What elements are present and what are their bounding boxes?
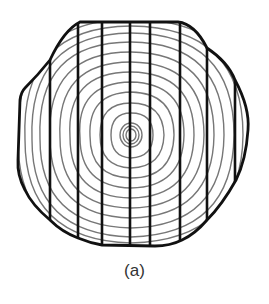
log-cross-section-figure — [0, 0, 269, 304]
log-diagram-svg — [0, 0, 269, 304]
figure-caption: (a) — [0, 261, 269, 281]
